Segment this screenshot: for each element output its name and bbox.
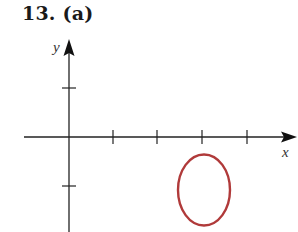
coordinate-plane: y x xyxy=(0,0,298,232)
red-ellipse-curve xyxy=(178,155,230,226)
x-axis-label: x xyxy=(281,144,289,160)
y-axis-label: y xyxy=(51,39,60,55)
